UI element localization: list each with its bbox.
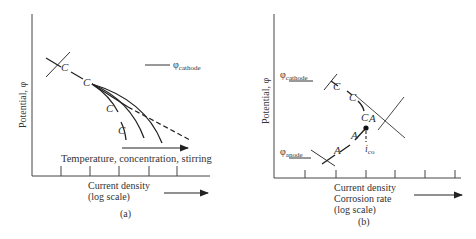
anode-label-a: A xyxy=(368,112,376,124)
y-axis-label: Potential, φ xyxy=(17,81,28,128)
cathode-legend-label: φcathode xyxy=(173,59,201,72)
panel-caption: (a) xyxy=(120,208,131,220)
anode-potential-label: φanode xyxy=(280,146,303,159)
x-axis-label: Current density xyxy=(334,182,396,193)
icorr-label: ico xyxy=(365,143,375,156)
y-axis-label: Potential, φ xyxy=(260,77,271,124)
cathode-label-c: C xyxy=(361,111,369,123)
tafel-line xyxy=(46,58,61,67)
anode-label-a: A xyxy=(333,144,341,156)
curve-label-c: C xyxy=(118,124,126,136)
panel-a: Potential, φ C C C C φcathode Temperatur… xyxy=(17,14,213,220)
curve-label-c: C xyxy=(61,61,69,73)
x-axis-label-scale: (log scale) xyxy=(334,204,376,216)
cathode-potential-label: φcathode xyxy=(280,69,308,82)
x-axis-ticks xyxy=(61,166,177,176)
figure: Potential, φ C C C C φcathode Temperatur… xyxy=(0,0,476,239)
anode-label-a: A xyxy=(350,129,358,141)
anode-polarization-curve xyxy=(322,128,366,164)
curve-label-c: C xyxy=(83,76,91,88)
panel-b: Potential, φ φcathode φanode ico C C C A… xyxy=(260,14,462,228)
cathode-label-c: C xyxy=(333,80,341,92)
x-axis-label: Current density xyxy=(88,180,150,191)
cathode-label-c: C xyxy=(349,91,357,103)
x-axis-label-scale: (log scale) xyxy=(88,191,130,203)
anode-tafel-extension xyxy=(378,97,404,130)
corrosion-point xyxy=(363,125,368,130)
x-axis-ticks xyxy=(305,170,455,178)
panel-caption: (b) xyxy=(358,216,370,228)
curve-label-c: C xyxy=(106,102,114,114)
tafel-line-segment xyxy=(71,72,83,79)
x-axis-label-corrosion: Corrosion rate xyxy=(334,193,392,204)
trend-label: Temperature, concentration, stirring xyxy=(61,153,213,164)
